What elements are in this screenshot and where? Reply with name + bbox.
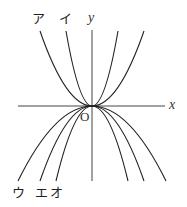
x-axis-label: x <box>169 98 175 112</box>
label-i: イ <box>59 12 72 25</box>
parabola-diagram <box>0 0 187 207</box>
y-axis-label: y <box>88 11 94 25</box>
origin-label: O <box>80 110 89 123</box>
label-e: エ <box>35 186 48 199</box>
label-u: ウ <box>12 186 25 199</box>
label-a: ア <box>32 12 45 25</box>
label-o: オ <box>50 186 63 199</box>
